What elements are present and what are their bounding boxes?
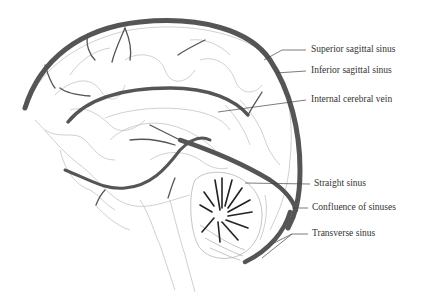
internal-cerebral-vein-vessel [65, 138, 210, 188]
label-transverse-sinus: Transverse sinus [312, 228, 375, 238]
brain-outline [30, 27, 291, 292]
label-inferior-sagittal-sinus: Inferior sagittal sinus [311, 65, 392, 75]
inferior-sagittal-sinus-vessel [68, 88, 248, 122]
cerebellum [191, 172, 262, 260]
label-confluence-of-sinuses: Confluence of sinuses [312, 202, 396, 212]
straight-sinus-vessel [180, 140, 296, 210]
label-straight-sinus: Straight sinus [314, 178, 366, 188]
label-superior-sagittal-sinus: Superior sagittal sinus [311, 44, 395, 54]
transverse-sinus-vessel [245, 212, 290, 262]
arbor-vitae [200, 178, 252, 242]
label-internal-cerebral-vein: Internal cerebral vein [311, 94, 392, 104]
superior-sagittal-sinus-vessel [25, 21, 300, 228]
